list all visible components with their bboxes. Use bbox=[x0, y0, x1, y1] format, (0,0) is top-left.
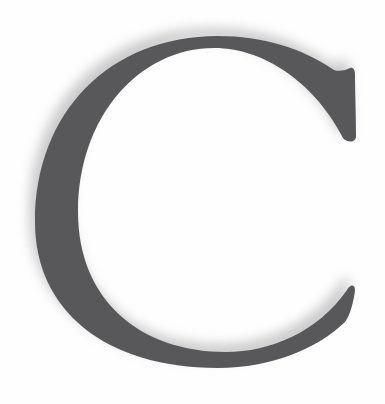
letter-c-image: C bbox=[0, 0, 385, 404]
letter-c-glyph bbox=[0, 0, 385, 404]
